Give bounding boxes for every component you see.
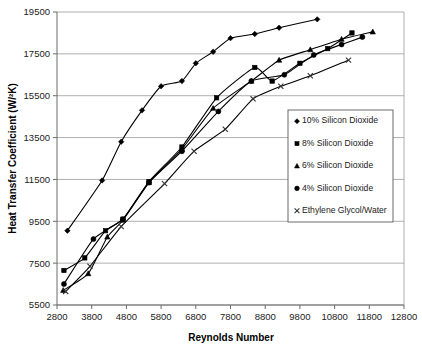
marker-square: [295, 142, 299, 146]
marker-x: [119, 224, 124, 229]
marker-x: [308, 73, 313, 78]
legend-entry-5[interactable]: Ethylene Glycol/Water: [295, 205, 387, 215]
marker-circle: [91, 237, 96, 242]
marker-square: [270, 79, 274, 83]
marker-triangle: [370, 29, 375, 34]
legend-entry-2[interactable]: 8% Silicon Dioxide: [295, 138, 373, 148]
marker-x: [87, 264, 92, 269]
marker-square: [253, 65, 257, 69]
marker-square: [214, 96, 218, 100]
y-tick-label: 13500: [24, 132, 50, 143]
series-curve: [67, 19, 317, 230]
marker-circle: [249, 79, 254, 84]
marker-circle: [311, 52, 316, 57]
marker-square: [83, 256, 87, 260]
x-tick-label: 6800: [185, 311, 206, 322]
y-tick-label: 5500: [29, 299, 50, 310]
marker-circle: [282, 72, 287, 77]
x-tick-label: 7800: [220, 311, 241, 322]
marker-x: [191, 149, 196, 154]
legend-entry-3[interactable]: 6% Silicon Dioxide: [295, 160, 374, 170]
marker-circle: [360, 35, 365, 40]
legend-entry-label: 4% Silicon Dioxide: [302, 183, 373, 193]
marker-circle: [120, 217, 125, 222]
marker-circle: [295, 186, 300, 191]
marker-x: [278, 84, 283, 89]
marker-circle: [61, 282, 66, 287]
chart-container: 5500750095001150013500155001750019500 28…: [0, 0, 422, 347]
legend-entry-label: 6% Silicon Dioxide: [302, 160, 373, 170]
chart-legend: 10% Silicon Dioxide8% Silicon Dioxide6% …: [288, 110, 393, 222]
y-tick-label: 17500: [24, 48, 50, 59]
y-tick-label: 9500: [29, 216, 50, 227]
marker-x: [250, 96, 255, 101]
y-axis-tick-labels: 5500750095001150013500155001750019500: [24, 6, 50, 310]
x-tick-label: 3800: [81, 311, 102, 322]
legend-entry-label: 8% Silicon Dioxide: [302, 138, 373, 148]
marker-square: [62, 268, 66, 272]
legend-entry-1[interactable]: 10% Silicon Dioxide: [295, 115, 379, 125]
x-axis-title: Reynolds Number: [188, 332, 274, 343]
x-axis-tick-labels: 2800380048005800680078008800980010800118…: [46, 311, 417, 322]
legend-entry-label: Ethylene Glycol/Water: [302, 205, 387, 215]
y-tick-label: 7500: [29, 258, 50, 269]
marker-diamond: [252, 31, 257, 36]
marker-circle: [179, 149, 184, 154]
x-tick-label: 12800: [391, 311, 417, 322]
legend-entry-4[interactable]: 4% Silicon Dioxide: [295, 183, 374, 193]
marker-circle: [216, 109, 221, 114]
x-tick-label: 10800: [321, 311, 347, 322]
marker-diamond: [315, 17, 320, 22]
x-tick-label: 4800: [116, 311, 137, 322]
x-tick-label: 9800: [289, 311, 310, 322]
y-tick-label: 19500: [24, 6, 50, 17]
x-tick-label: 5800: [151, 311, 172, 322]
marker-circle: [339, 42, 344, 47]
x-tick-label: 11800: [356, 311, 382, 322]
marker-diamond: [118, 139, 123, 144]
y-tick-label: 11500: [24, 174, 50, 185]
marker-x: [346, 58, 351, 63]
marker-circle: [146, 180, 151, 185]
x-tick-label: 2800: [46, 311, 67, 322]
marker-diamond: [228, 35, 233, 40]
x-tick-label: 8800: [255, 311, 276, 322]
heat-transfer-coefficient-line-chart: 5500750095001150013500155001750019500 28…: [0, 0, 422, 347]
marker-x: [223, 127, 228, 132]
marker-diamond: [99, 178, 104, 183]
marker-x: [162, 181, 167, 186]
legend-entry-label: 10% Silicon Dioxide: [302, 115, 378, 125]
marker-diamond: [276, 25, 281, 30]
series-1: [65, 17, 320, 234]
marker-square: [350, 31, 354, 35]
y-axis-title: Heat Transfer Coefficient (W/²K): [7, 83, 18, 234]
y-tick-label: 15500: [24, 90, 50, 101]
